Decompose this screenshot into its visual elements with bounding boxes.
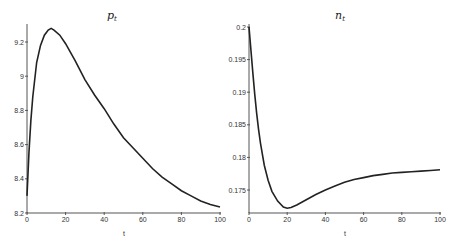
x-tick-label: 60 bbox=[139, 216, 147, 223]
y-tick-label: 8.8 bbox=[14, 107, 24, 114]
y-tick-label: 8.4 bbox=[14, 175, 24, 182]
x-axis-label: t bbox=[344, 230, 346, 237]
x-tick-label: 60 bbox=[360, 216, 368, 223]
y-tick-label: 8.2 bbox=[14, 210, 24, 217]
x-tick-label: 20 bbox=[62, 216, 70, 223]
x-ticks: 020406080100 bbox=[25, 212, 226, 223]
y-tick-label: 0.175 bbox=[228, 187, 246, 194]
chart-n-t-canvas: nt 0.1750.180.1850.190.1950.2 0204060801… bbox=[228, 0, 456, 240]
series-line-n bbox=[249, 27, 440, 208]
y-tick-label: 0.2 bbox=[236, 24, 246, 31]
x-axis-label: t bbox=[123, 230, 125, 237]
y-tick-label: 0.18 bbox=[232, 154, 246, 161]
x-ticks: 020406080100 bbox=[247, 212, 446, 223]
y-tick-label: 0.195 bbox=[228, 56, 246, 63]
series-line-p bbox=[27, 28, 220, 207]
y-tick-label: 9 bbox=[20, 73, 24, 80]
y-tick-label: 0.185 bbox=[228, 121, 246, 128]
x-tick-label: 0 bbox=[247, 216, 251, 223]
chart-title-p: pt bbox=[107, 9, 117, 23]
y-ticks: 8.28.48.68.899.2 bbox=[14, 39, 28, 217]
chart-p-t: pt 8.28.48.68.899.2 020406080100 t bbox=[0, 0, 228, 240]
chart-n-t: nt 0.1750.180.1850.190.1950.2 0204060801… bbox=[228, 0, 456, 240]
x-tick-label: 40 bbox=[100, 216, 108, 223]
x-tick-label: 100 bbox=[214, 216, 226, 223]
chart-title-n: nt bbox=[335, 9, 345, 23]
y-tick-label: 0.19 bbox=[232, 89, 246, 96]
y-tick-label: 8.6 bbox=[14, 141, 24, 148]
x-tick-label: 100 bbox=[434, 216, 446, 223]
x-tick-label: 80 bbox=[398, 216, 406, 223]
y-ticks: 0.1750.180.1850.190.1950.2 bbox=[228, 24, 250, 194]
chart-p-t-canvas: pt 8.28.48.68.899.2 020406080100 t bbox=[0, 0, 228, 240]
y-tick-label: 9.2 bbox=[14, 39, 24, 46]
x-tick-label: 0 bbox=[25, 216, 29, 223]
x-tick-label: 80 bbox=[178, 216, 186, 223]
x-tick-label: 20 bbox=[283, 216, 291, 223]
x-tick-label: 40 bbox=[322, 216, 330, 223]
